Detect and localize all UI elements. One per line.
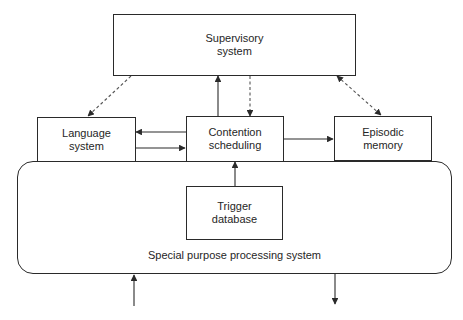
episodic-memory-label-line1: Episodic <box>362 126 404 139</box>
trigger-database-box: Trigger database <box>186 186 283 240</box>
contention-scheduling-label-line2: scheduling <box>208 139 261 152</box>
language-system-label-line2: system <box>62 140 111 153</box>
special-purpose-processing-system-label: Special purpose processing system <box>17 249 452 261</box>
arrow-supervisory-to-language <box>88 76 131 116</box>
language-system-label-line1: Language <box>62 127 111 140</box>
episodic-memory-label-line2: memory <box>362 139 404 152</box>
trigger-database-label-line1: Trigger <box>212 200 257 213</box>
contention-scheduling-box: Contention scheduling <box>186 116 284 162</box>
supervisory-system-label-line1: Supervisory <box>205 32 263 45</box>
language-system-box: Language system <box>37 117 136 162</box>
supervisory-system-label-line2: system <box>205 45 263 58</box>
supervisory-system-box: Supervisory system <box>113 14 356 76</box>
contention-scheduling-label-line1: Contention <box>208 126 261 139</box>
arrow-supervisory-episodic-bidirectional <box>337 76 381 115</box>
trigger-database-label-line2: database <box>212 213 257 226</box>
episodic-memory-box: Episodic memory <box>334 116 432 161</box>
